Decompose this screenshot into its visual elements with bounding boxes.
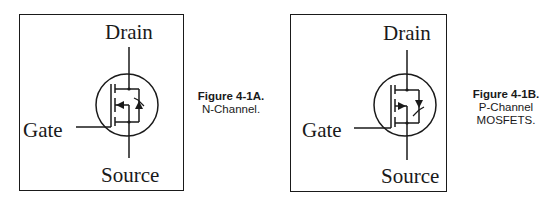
body-arrow-inward-icon bbox=[116, 101, 124, 109]
source-label-b: Source bbox=[381, 166, 439, 187]
caption-a: Figure 4-1A. N-Channel. bbox=[196, 90, 266, 116]
diode-icon bbox=[135, 101, 143, 109]
figure-desc-b-line2: MOSFETS. bbox=[468, 114, 544, 127]
figure-desc-a-line1: N-Channel. bbox=[196, 103, 266, 116]
caption-b: Figure 4-1B. P-Channel MOSFETS. bbox=[468, 88, 544, 127]
drain-label-b: Drain bbox=[383, 23, 431, 44]
figure-label-a: Figure 4-1A. bbox=[196, 90, 266, 103]
figure-desc-b-line1: P-Channel bbox=[468, 101, 544, 114]
gate-label-b: Gate bbox=[302, 120, 342, 141]
figure-label-b: Figure 4-1B. bbox=[468, 88, 544, 101]
